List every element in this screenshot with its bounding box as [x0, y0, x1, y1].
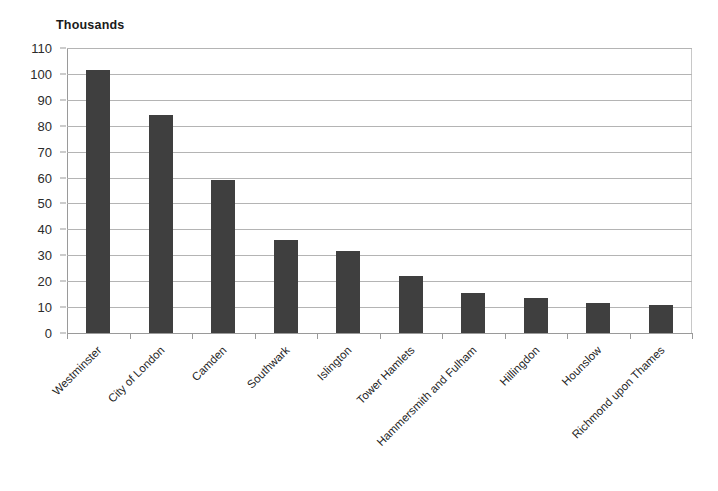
x-axis-tick-label: Camden — [190, 344, 229, 383]
y-axis-tick-label: 40 — [38, 222, 52, 237]
y-axis-tick-mark — [60, 229, 66, 230]
y-axis-tick-label: 110 — [31, 41, 52, 56]
y-axis-tick-label: 50 — [38, 196, 52, 211]
y-axis-tick-label: 90 — [38, 92, 52, 107]
bar — [586, 303, 610, 333]
y-axis-tick-mark — [60, 151, 66, 152]
y-axis-tick-mark — [60, 255, 66, 256]
bar — [86, 70, 110, 333]
y-axis-tick-label: 20 — [38, 274, 52, 289]
y-axis-tick-label: 70 — [38, 144, 52, 159]
x-axis-tick-label: Hillingdon — [497, 344, 541, 388]
bar — [149, 115, 173, 333]
y-axis-tick-label: 30 — [38, 248, 52, 263]
bars — [67, 48, 692, 333]
x-axis-tick-label: Hounslow — [560, 344, 604, 388]
bar — [211, 180, 235, 333]
x-axis-tick-label: Southwark — [244, 344, 291, 391]
y-axis-tick-mark — [60, 203, 66, 204]
y-axis-tick-label: 10 — [38, 300, 52, 315]
y-axis-tick-label: 60 — [38, 170, 52, 185]
y-axis-tick-label: 0 — [45, 326, 52, 341]
x-axis-tick-mark — [692, 333, 693, 339]
y-axis-tick-mark — [60, 48, 66, 49]
bar — [274, 240, 298, 333]
x-axis-tick-label: Westminster — [50, 344, 104, 398]
y-axis-tick-label: 80 — [38, 118, 52, 133]
x-axis-tick-label: City of London — [105, 344, 166, 405]
bar — [336, 251, 360, 333]
y-axis-labels: 1101009080706050403020100 — [0, 48, 60, 333]
y-axis-tick-mark — [60, 125, 66, 126]
y-axis-tick-mark — [60, 307, 66, 308]
y-axis-tick-mark — [60, 333, 66, 334]
x-axis-tick-label: Hammersmith and Fulham — [375, 344, 479, 448]
y-axis-tick-mark — [60, 73, 66, 74]
bar-chart: Thousands 1101009080706050403020100 West… — [0, 0, 718, 491]
x-axis-tick-label: Islington — [315, 344, 354, 383]
x-axis-labels: WestminsterCity of LondonCamdenSouthwark… — [67, 333, 692, 488]
x-axis-tick-label: Tower Hamlets — [354, 344, 416, 406]
plot-area — [67, 48, 692, 333]
y-axis-tick-mark — [60, 99, 66, 100]
y-axis-tick-mark — [60, 177, 66, 178]
y-axis-tick-mark — [60, 281, 66, 282]
y-axis-tick-label: 100 — [30, 66, 52, 81]
bar — [649, 305, 673, 334]
bar — [399, 276, 423, 333]
chart-title: Thousands — [56, 18, 124, 32]
